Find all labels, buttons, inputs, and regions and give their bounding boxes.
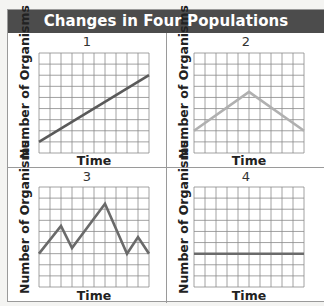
- x-axis-label: Time: [193, 288, 305, 303]
- panel-4: 4 Number of Organisms Time: [167, 168, 324, 303]
- line-plot: [193, 52, 305, 154]
- x-axis-label: Time: [38, 153, 150, 168]
- y-axis-label: Number of Organisms: [176, 5, 191, 159]
- line-plot: [193, 186, 305, 288]
- y-axis-label: Number of Organisms: [17, 5, 32, 159]
- y-axis-label: Number of Organisms: [176, 140, 191, 294]
- line-plot: [38, 186, 150, 288]
- panel-3: 3 Number of Organisms Time: [8, 168, 166, 303]
- chart-frame: Changes in Four Populations 1 Number of …: [7, 9, 324, 302]
- y-axis-label: Number of Organisms: [17, 140, 32, 294]
- line-plot: [38, 52, 150, 154]
- chart-title: Changes in Four Populations: [8, 10, 324, 33]
- x-axis-label: Time: [193, 153, 305, 168]
- x-axis-label: Time: [38, 288, 150, 303]
